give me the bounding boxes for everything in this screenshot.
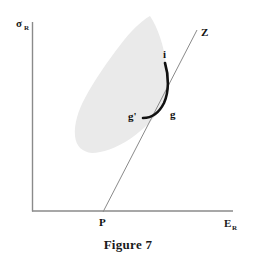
x-axis-label-e: E (224, 217, 231, 229)
z-line-label: Z (201, 26, 208, 38)
curve-bottom-label-g-prime: g' (128, 110, 137, 122)
y-axis-label-sigma: σ (16, 17, 22, 29)
tangency-label-g: g (170, 108, 176, 120)
x-axis-label-subscript: R (232, 224, 238, 232)
figure-7-diagram: σ R E R Z P i g g' Figure 7 (0, 0, 256, 262)
curve-top-label-i: i (163, 48, 166, 60)
figure-caption: Figure 7 (104, 237, 153, 252)
shaded-feasible-region (75, 16, 167, 153)
y-axis-label-subscript: R (24, 24, 30, 32)
figure-container: σ R E R Z P i g g' Figure 7 (0, 0, 256, 262)
p-intercept-label: P (99, 216, 106, 228)
